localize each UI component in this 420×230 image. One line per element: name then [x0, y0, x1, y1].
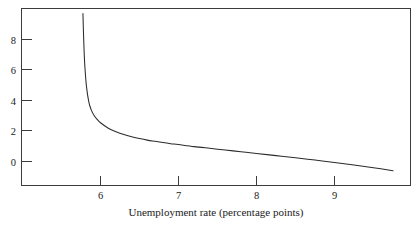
y-tick-label-6: 6	[11, 65, 16, 76]
y-tick-label-0: 0	[11, 157, 16, 168]
chart-background	[0, 0, 420, 230]
x-tick-label-6: 6	[98, 190, 103, 201]
x-tick-label-7: 7	[176, 190, 181, 201]
x-axis-title: Unemployment rate (percentage points)	[128, 206, 303, 219]
y-tick-label-4: 4	[11, 96, 17, 107]
x-tick-label-9: 9	[332, 190, 337, 201]
phillips-curve-chart: 8 6 4 2 0 6 7 8 9 Unemployment rate (per…	[0, 0, 420, 230]
y-tick-label-8: 8	[11, 35, 16, 46]
chart-figure: 8 6 4 2 0 6 7 8 9 Unemployment rate (per…	[0, 0, 420, 230]
x-tick-label-8: 8	[254, 190, 259, 201]
y-tick-label-2: 2	[11, 126, 16, 137]
